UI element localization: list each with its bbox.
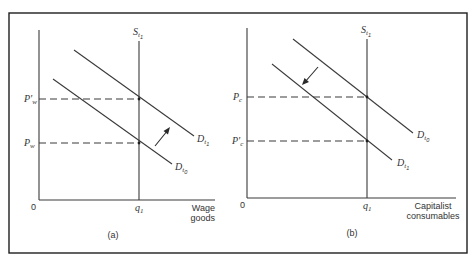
figure-frame: [9, 13, 467, 253]
panel-b-price-low-label: P'c: [231, 135, 244, 148]
panel-b-x-axis-label-line1: Capitalist: [414, 201, 452, 211]
panel-b-equilibrium-high: [366, 96, 369, 99]
panel-b-x-axis-label-line2: consumables: [406, 211, 460, 221]
panel-a-origin-label: 0: [31, 202, 36, 212]
panel-a-demand-upper-label: Dt1: [196, 133, 209, 147]
panel-b-demand-lower: [272, 64, 392, 160]
panel-a-equilibrium-low: [138, 142, 141, 145]
panel-a-demand-lower-label: Dt0: [174, 161, 188, 175]
panel-b-price-high-label: Pc: [232, 91, 243, 104]
panel-b-quantity-label: q1: [363, 200, 372, 213]
panel-b-demand-upper-label: Dt0: [416, 129, 430, 143]
panel-a-price-low-label: Pw: [23, 137, 35, 150]
panel-a-quantity-label: q1: [135, 202, 144, 215]
supply-demand-diagram: St1 P'w Pw Dt1 Dt0 0 q1 Wage goods (a): [0, 0, 474, 260]
panel-a-demand-upper: [74, 50, 194, 136]
panel-a-supply-label: St1: [133, 26, 143, 40]
panel-b-demand-lower-label: Dt1: [396, 157, 409, 171]
panel-b: St1 Pc P'c Dt0 Dt1 0 q1 Capitalist consu…: [231, 24, 460, 238]
panel-b-origin-label: 0: [240, 200, 245, 210]
panel-a-x-axis-label-line1: Wage: [192, 203, 215, 213]
panel-a-x-axis-label-line2: goods: [190, 213, 215, 223]
panel-b-shift-arrow-icon: [302, 67, 318, 85]
panel-a-equilibrium-high: [138, 98, 141, 101]
panel-a-caption: (a): [108, 230, 119, 240]
panel-b-demand-upper: [293, 39, 413, 133]
panel-a: St1 P'w Pw Dt1 Dt0 0 q1 Wage goods (a): [23, 26, 215, 240]
panel-a-shift-arrow-icon: [155, 127, 170, 146]
panel-a-demand-lower: [53, 79, 172, 164]
panel-b-supply-label: St1: [361, 24, 371, 38]
panel-b-caption: (b): [347, 228, 358, 238]
panel-b-equilibrium-low: [366, 140, 369, 143]
panel-a-price-high-label: P'w: [23, 93, 37, 106]
